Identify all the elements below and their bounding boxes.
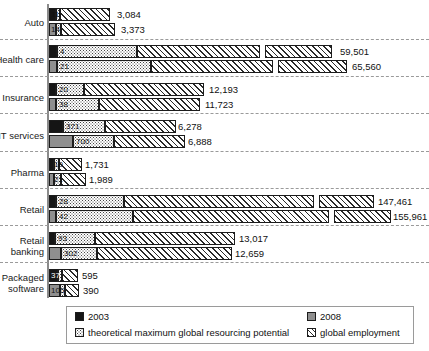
- bar-inline-value: 302: [64, 247, 77, 260]
- group-separator: [0, 188, 429, 189]
- bar-value-pharma-2008: 1,989: [89, 173, 113, 186]
- bar-insurance-2008: 38: [49, 98, 200, 111]
- legend-label-2008: 2008: [320, 311, 341, 322]
- group-separator: [0, 262, 429, 263]
- segment-employment: [114, 135, 185, 148]
- group-separator: [0, 113, 429, 114]
- legend-item-potential[interactable]: theoretical maximum global resourcing po…: [75, 327, 289, 338]
- segment-employment: [84, 83, 204, 96]
- segment-employment: [61, 23, 115, 36]
- bar-value-health-care-2008: 65,560: [352, 60, 381, 73]
- segment-employment-continued: [278, 60, 347, 73]
- bar-value-retail-banking-2003: 13,017: [239, 232, 268, 245]
- bar-retail-banking-2003: 93: [49, 232, 235, 245]
- segment-employment: [95, 232, 235, 245]
- segment-marker-2003: [49, 120, 63, 133]
- bar-auto-2008: 14: [49, 23, 115, 36]
- segment-marker-2008: [49, 247, 61, 260]
- bar-inline-value: 10: [54, 158, 63, 171]
- bar-inline-value: 105: [51, 284, 64, 297]
- segment-employment-continued: [319, 195, 374, 208]
- group-separator: [0, 225, 429, 226]
- bar-value-health-care-2003: 59,501: [340, 45, 369, 58]
- segment-employment: [99, 98, 200, 111]
- bar-value-it-services-2003: 6,278: [178, 120, 202, 133]
- bar-retail-2003: 28: [49, 195, 374, 208]
- bar-packaged-software-2003: 37: [49, 269, 78, 282]
- segment-potential: [57, 45, 137, 58]
- segment-marker-2008: [49, 135, 73, 148]
- segment-employment: [137, 45, 260, 58]
- category-label-retail: Retail: [0, 204, 44, 215]
- bar-inline-value: 700: [76, 135, 89, 148]
- segment-marker-2008: [49, 98, 56, 111]
- segment-marker-2003: [49, 45, 57, 58]
- legend-item-2008[interactable]: 2008: [307, 311, 341, 322]
- bar-auto-2003: 11: [49, 8, 110, 21]
- bar-inline-value: 4: [60, 45, 64, 58]
- legend-label-employment: global employment: [320, 327, 400, 338]
- chart-container: Auto 11 3,084 14 3,373 Health care 4 59,…: [0, 0, 429, 351]
- category-label-retail-banking: Retail banking: [0, 235, 44, 257]
- bar-value-retail-2008: 155,961: [393, 210, 427, 223]
- bar-it-services-2008: 700: [49, 135, 185, 148]
- bar-inline-value: 20: [59, 83, 68, 96]
- group-separator: [0, 76, 429, 77]
- segment-marker-2008: [49, 210, 56, 223]
- bar-value-packaged-software-2008: 390: [83, 284, 99, 297]
- bar-value-retail-2003: 147,461: [378, 195, 412, 208]
- segment-employment-continued: [265, 45, 332, 58]
- bar-value-insurance-2008: 11,723: [205, 98, 233, 111]
- bar-inline-value: 11: [51, 8, 59, 21]
- group-separator: [0, 151, 429, 152]
- segment-employment: [133, 210, 329, 223]
- hatched-swatch-icon: [307, 328, 316, 337]
- bar-inline-value: 21: [54, 173, 63, 186]
- bar-pharma-2008: 21: [49, 173, 86, 186]
- legend-label-potential: theoretical maximum global resourcing po…: [88, 327, 289, 338]
- bar-inline-value: 38: [59, 98, 68, 111]
- solid-gray-swatch-icon: [307, 312, 316, 321]
- bar-value-retail-banking-2008: 12,659: [235, 247, 264, 260]
- bar-inline-value: 14: [51, 23, 60, 36]
- bar-inline-value: 93: [58, 232, 67, 245]
- bar-value-auto-2003: 3,084: [117, 8, 141, 21]
- category-label-it-services: IT services: [0, 130, 44, 141]
- bar-health-care-2003: 4: [49, 45, 332, 58]
- segment-employment: [61, 173, 86, 186]
- segment-marker-2003: [49, 83, 56, 96]
- legend-item-employment[interactable]: global employment: [307, 327, 400, 338]
- segment-marker-2003: [49, 195, 56, 208]
- group-separator: [0, 39, 429, 40]
- bar-inline-value: 371: [66, 120, 79, 133]
- bar-inline-value: 37: [51, 269, 60, 282]
- segment-employment: [124, 195, 314, 208]
- segment-employment: [151, 60, 273, 73]
- bar-value-insurance-2003: 12,193: [209, 83, 238, 96]
- segment-employment: [105, 120, 176, 133]
- category-label-health-care: Health care: [0, 54, 44, 65]
- legend-item-2003[interactable]: 2003: [75, 311, 109, 322]
- segment-employment: [65, 284, 79, 297]
- category-label-auto: Auto: [0, 17, 44, 28]
- legend-row-bottom: theoretical maximum global resourcing po…: [67, 327, 413, 344]
- bar-retail-banking-2008: 302: [49, 247, 232, 260]
- bar-value-it-services-2008: 6,888: [188, 135, 212, 148]
- segment-employment: [60, 8, 110, 21]
- bar-insurance-2003: 20: [49, 83, 204, 96]
- bar-inline-value: 28: [59, 195, 68, 208]
- bar-value-packaged-software-2003: 595: [82, 269, 98, 282]
- bar-health-care-2008: 21: [49, 60, 347, 73]
- plot-area: Auto 11 3,084 14 3,373 Health care 4 59,…: [0, 0, 429, 300]
- chart-legend: 2003 2008 theoretical maximum global res…: [66, 306, 414, 344]
- bar-packaged-software-2008: 105: [49, 284, 79, 297]
- bar-retail-2008: 42: [49, 210, 391, 223]
- bar-it-services-2003: 371: [49, 120, 176, 133]
- solid-black-swatch-icon: [75, 312, 84, 321]
- category-label-insurance: Insurance: [0, 92, 44, 103]
- legend-label-2003: 2003: [88, 311, 109, 322]
- legend-row-top: 2003 2008: [67, 311, 413, 328]
- segment-potential: [57, 60, 151, 73]
- segment-employment: [62, 269, 78, 282]
- category-label-packaged-software: Packaged software: [0, 272, 44, 294]
